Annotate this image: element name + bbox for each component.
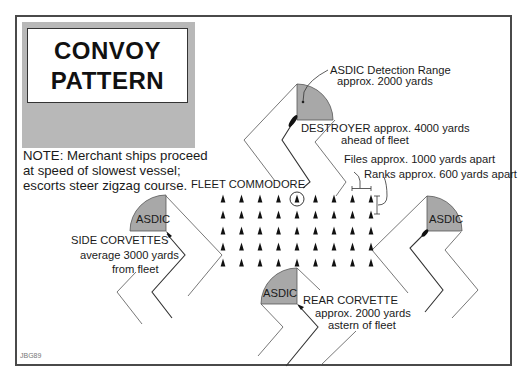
merchant-ship-icon bbox=[239, 227, 244, 235]
rear-corvette-label-3: astern of fleet bbox=[328, 318, 396, 332]
merchant-ship-icon bbox=[276, 259, 281, 267]
destroyer-label-2: ahead of fleet bbox=[341, 133, 409, 147]
merchant-ship-icon bbox=[258, 259, 263, 267]
merchant-ship-icon bbox=[221, 195, 226, 203]
left-corvette-asdic-label: ASDIC bbox=[136, 212, 170, 226]
merchant-ship-icon bbox=[313, 195, 318, 203]
merchant-ship-icon bbox=[276, 243, 281, 251]
files-label: Files approx. 1000 yards apart bbox=[344, 152, 495, 166]
destroyer-ship-icon bbox=[287, 114, 299, 128]
merchant-ship-icon bbox=[239, 243, 244, 251]
merchant-ship-icon bbox=[295, 211, 300, 219]
merchant-ship-icon bbox=[332, 259, 337, 267]
merchant-ship-icon bbox=[313, 259, 318, 267]
merchant-fleet-grid bbox=[221, 195, 374, 267]
merchant-ship-icon bbox=[332, 243, 337, 251]
merchant-ship-icon bbox=[313, 227, 318, 235]
rear-corvette-asdic-label: ASDIC bbox=[263, 286, 297, 300]
merchant-ship-icon bbox=[350, 243, 355, 251]
merchant-ship-icon bbox=[258, 227, 263, 235]
rear-corvette-label-1: REAR CORVETTE bbox=[303, 293, 398, 307]
merchant-ship-icon bbox=[221, 243, 226, 251]
merchant-ship-icon bbox=[276, 195, 281, 203]
merchant-ship-icon bbox=[221, 227, 226, 235]
merchant-ship-icon bbox=[295, 195, 300, 203]
merchant-ship-icon bbox=[369, 243, 374, 251]
asdic-range-label-2: approx. 2000 yards bbox=[337, 74, 433, 88]
ranks-label: Ranks approx. 600 yards apart bbox=[364, 167, 517, 181]
merchant-ship-icon bbox=[332, 227, 337, 235]
merchant-ship-icon bbox=[369, 211, 374, 219]
merchant-ship-icon bbox=[258, 195, 263, 203]
merchant-ship-icon bbox=[332, 211, 337, 219]
merchant-ship-icon bbox=[313, 243, 318, 251]
merchant-ship-icon bbox=[350, 211, 355, 219]
credit-text: JBG89 bbox=[20, 352, 41, 359]
merchant-ship-icon bbox=[221, 259, 226, 267]
merchant-ship-icon bbox=[350, 195, 355, 203]
merchant-ship-icon bbox=[258, 211, 263, 219]
merchant-ship-icon bbox=[295, 243, 300, 251]
merchant-ship-icon bbox=[295, 227, 300, 235]
side-corvettes-label-2: average 3000 yards bbox=[80, 248, 179, 262]
side-corvettes-label-1: SIDE CORVETTES bbox=[71, 233, 168, 247]
merchant-ship-icon bbox=[239, 195, 244, 203]
merchant-ship-icon bbox=[239, 211, 244, 219]
merchant-ship-icon bbox=[369, 227, 374, 235]
merchant-ship-icon bbox=[369, 195, 374, 203]
merchant-ship-icon bbox=[258, 243, 263, 251]
merchant-ship-icon bbox=[239, 259, 244, 267]
side-corvettes-label-3: from fleet bbox=[112, 262, 159, 276]
merchant-ship-icon bbox=[221, 211, 226, 219]
fleet-commodore-label: FLEET COMMODORE bbox=[191, 177, 305, 191]
merchant-ship-icon bbox=[276, 211, 281, 219]
merchant-ship-icon bbox=[350, 227, 355, 235]
convoy-diagram bbox=[0, 0, 529, 385]
merchant-ship-icon bbox=[295, 259, 300, 267]
merchant-ship-icon bbox=[332, 195, 337, 203]
merchant-ship-icon bbox=[350, 259, 355, 267]
merchant-ship-icon bbox=[313, 211, 318, 219]
merchant-ship-icon bbox=[369, 259, 374, 267]
merchant-ship-icon bbox=[276, 227, 281, 235]
right-corvette-asdic-label: ASDIC bbox=[429, 212, 463, 226]
